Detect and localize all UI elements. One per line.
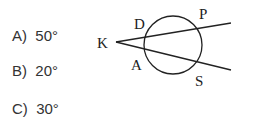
label-k: K xyxy=(97,35,108,51)
label-a: A xyxy=(131,57,142,73)
label-d: D xyxy=(134,16,145,32)
circle xyxy=(144,16,202,74)
label-p: P xyxy=(199,6,207,22)
geometry-diagram: K D P A S xyxy=(0,0,253,139)
label-s: S xyxy=(195,73,203,89)
